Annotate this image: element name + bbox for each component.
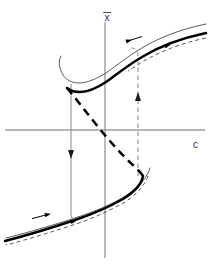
trajectory-outer-dashed-group [6,38,206,245]
y-axis-label: x [105,12,110,23]
x-axis-label: c [193,139,198,150]
trajectory-outer-dashed-upper [128,38,206,71]
axis-labels-group: c x [103,12,198,150]
axes-group [5,22,205,258]
upper-solid-arrow [129,37,142,41]
trajectory-outer-solid-lower [6,168,150,238]
bifurcation-diagram-figure: c x [0,0,211,264]
equilibrium-curve-main-lower [5,176,143,241]
up-jump-arrowhead [135,92,141,101]
bifurcation-diagram-canvas: c x [0,0,211,264]
trajectory-outer-solid-upper [59,24,206,83]
equilibrium-curve-main [67,33,206,92]
down-jump-arrowhead [68,150,74,159]
lower-solid-arrow [32,214,48,218]
trajectory-outer-solid-group [6,24,206,238]
